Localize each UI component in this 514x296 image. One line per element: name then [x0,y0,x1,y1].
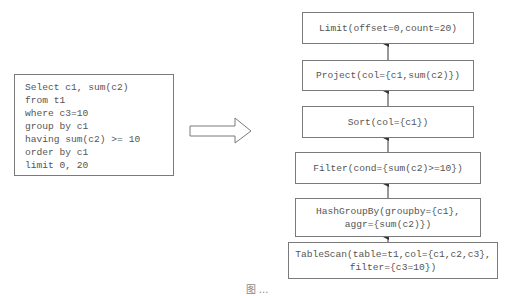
right-arrow-icon [190,118,251,143]
node-label: Limit(offset=0,count=20) [319,22,457,35]
node-label: TableScan(table=t1,col={c1,c2,c3}, [295,248,491,261]
plan-node-tablescan: TableScan(table=t1,col={c1,c2,c3}, filte… [288,242,498,279]
node-label: HashGroupBy(groupby={c1}, [316,205,460,218]
plan-node-filter: Filter(cond={sum(c2)>=10}) [295,152,481,184]
node-label: Sort(col={c1}) [348,116,429,129]
node-label: filter={c3=10}) [350,261,436,274]
node-label: Project(col={c1,sum(c2)}) [316,69,460,82]
figure-caption: 图 ... [0,281,514,296]
plan-node-limit: Limit(offset=0,count=20) [302,12,474,44]
plan-node-project: Project(col={c1,sum(c2)}) [302,60,474,91]
plan-node-sort: Sort(col={c1}) [302,106,474,138]
plan-node-hashgroupby: HashGroupBy(groupby={c1}, aggr={sum(c2)}… [295,198,481,237]
node-label: Filter(cond={sum(c2)>=10}) [313,162,463,175]
node-label: aggr={sum(c2)}) [345,218,431,231]
